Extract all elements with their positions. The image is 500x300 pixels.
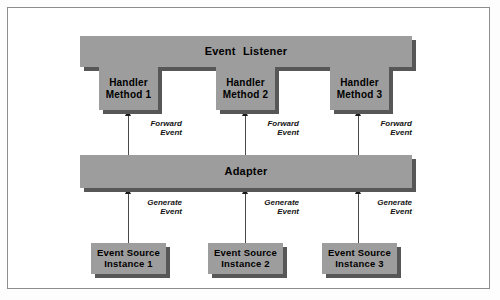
connector-generate-event-1	[128, 194, 129, 243]
caption-generate-event-2-line2: Event	[247, 207, 299, 216]
event-source-1-label-line2: Instance 1	[104, 259, 152, 270]
handler-method-1-block[interactable]: Handler Method 1	[99, 67, 158, 110]
connector-forward-event-2	[245, 116, 246, 155]
event-source-2-label-line2: Instance 2	[221, 259, 269, 270]
event-source-instance-3-block[interactable]: Event Source Instance 3	[322, 243, 397, 274]
adapter-label: Adapter	[225, 165, 268, 177]
caption-forward-event-3: Forward Event	[360, 119, 412, 137]
event-listener-label: Event Listener	[205, 45, 288, 57]
handler-method-2-label-line1: Handler	[226, 77, 265, 88]
event-source-2-label-line1: Event Source	[214, 248, 277, 259]
caption-generate-event-2: Generate Event	[247, 198, 299, 216]
handler-method-3-block[interactable]: Handler Method 3	[330, 67, 389, 110]
handler-method-3-label-line2: Method 3	[337, 89, 383, 100]
caption-generate-event-3-line1: Generate	[360, 198, 412, 207]
event-source-instance-2-block[interactable]: Event Source Instance 2	[208, 243, 283, 274]
caption-forward-event-3-line2: Event	[360, 128, 412, 137]
connector-generate-event-3	[358, 194, 359, 243]
connector-forward-event-1	[128, 116, 129, 155]
handler-method-2-label-line2: Method 2	[223, 89, 269, 100]
handler-method-1-label-line1: Handler	[109, 77, 148, 88]
caption-forward-event-1-line1: Forward	[130, 119, 182, 128]
adapter-block[interactable]: Adapter	[80, 155, 412, 188]
connector-generate-event-2	[245, 194, 246, 243]
diagram-figure: Event Listener Handler Method 1 Handler …	[0, 0, 500, 300]
caption-generate-event-1-line1: Generate	[130, 198, 182, 207]
event-source-instance-1-block[interactable]: Event Source Instance 1	[91, 243, 166, 274]
caption-forward-event-2-line1: Forward	[247, 119, 299, 128]
caption-forward-event-1: Forward Event	[130, 119, 182, 137]
caption-forward-event-2: Forward Event	[247, 119, 299, 137]
caption-generate-event-2-line1: Generate	[247, 198, 299, 207]
handler-method-3-label-line1: Handler	[340, 77, 379, 88]
caption-generate-event-1: Generate Event	[130, 198, 182, 216]
handler-method-1-label-line2: Method 1	[106, 89, 152, 100]
event-source-1-label-line1: Event Source	[97, 248, 160, 259]
event-source-3-label-line2: Instance 3	[335, 259, 383, 270]
caption-generate-event-3: Generate Event	[360, 198, 412, 216]
event-listener-block[interactable]: Event Listener	[80, 36, 412, 67]
caption-forward-event-3-line1: Forward	[360, 119, 412, 128]
connector-forward-event-3	[358, 116, 359, 155]
caption-forward-event-1-line2: Event	[130, 128, 182, 137]
event-source-3-label-line1: Event Source	[328, 248, 391, 259]
caption-generate-event-1-line2: Event	[130, 207, 182, 216]
handler-method-2-block[interactable]: Handler Method 2	[216, 67, 275, 110]
caption-forward-event-2-line2: Event	[247, 128, 299, 137]
caption-generate-event-3-line2: Event	[360, 207, 412, 216]
